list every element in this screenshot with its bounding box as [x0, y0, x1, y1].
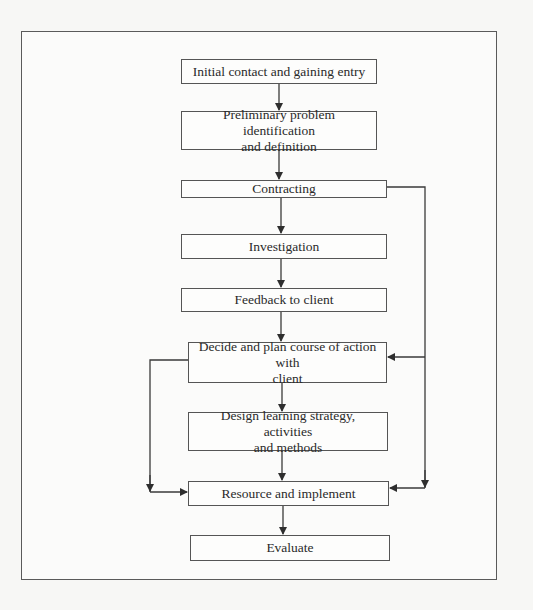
bypass-left-trunk: [150, 360, 188, 492]
node-investigation: Investigation: [181, 234, 387, 259]
node-label: Investigation: [249, 239, 320, 255]
node-feedback: Feedback to client: [181, 288, 387, 312]
node-label: Contracting: [252, 181, 316, 197]
node-label: Feedback to client: [235, 292, 334, 308]
node-design-learning: Design learning strategy, activities and…: [188, 412, 388, 451]
node-label-line2: and definition: [241, 139, 316, 155]
bypass-right-trunk: [387, 187, 425, 488]
node-decide-plan: Decide and plan course of action with cl…: [188, 342, 387, 383]
node-initial-contact: Initial contact and gaining entry: [181, 59, 377, 84]
node-resource-implement: Resource and implement: [188, 481, 389, 506]
node-preliminary-problem: Preliminary problem identification and d…: [181, 111, 377, 150]
node-label-line1: Preliminary problem identification: [188, 107, 370, 139]
node-label: Initial contact and gaining entry: [193, 64, 365, 80]
node-label-line2: and methods: [254, 440, 323, 456]
node-label-line1: Design learning strategy, activities: [195, 408, 381, 440]
node-evaluate: Evaluate: [190, 535, 390, 561]
node-contracting: Contracting: [181, 180, 387, 198]
node-label: Resource and implement: [221, 486, 355, 502]
node-label: Evaluate: [266, 540, 313, 556]
node-label-line2: client: [273, 371, 303, 387]
node-label-line1: Decide and plan course of action with: [195, 339, 380, 371]
